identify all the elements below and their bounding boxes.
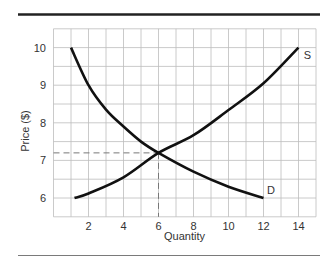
x-tick-label: 14 [292, 220, 304, 232]
curve-label-d: D [267, 184, 275, 196]
y-tick-label: 7 [40, 154, 46, 166]
x-tick-label: 6 [155, 220, 161, 232]
x-axis-label: Quantity [164, 230, 205, 242]
y-tick-label: 9 [40, 79, 46, 91]
y-tick-label: 10 [34, 42, 46, 54]
x-tick-label: 12 [257, 220, 269, 232]
x-tick-label: 2 [85, 220, 91, 232]
y-tick-label: 8 [40, 117, 46, 129]
curve-label-s: S [304, 49, 311, 61]
supply-demand-chart: 2468101214 678910 SD Quantity Price ($) [0, 0, 334, 266]
y-axis-label: Price ($) [19, 110, 31, 152]
y-tick-labels: 678910 [34, 42, 46, 204]
grid [54, 29, 317, 217]
x-tick-label: 4 [120, 220, 126, 232]
x-tick-label: 10 [222, 220, 234, 232]
y-tick-label: 6 [40, 192, 46, 204]
